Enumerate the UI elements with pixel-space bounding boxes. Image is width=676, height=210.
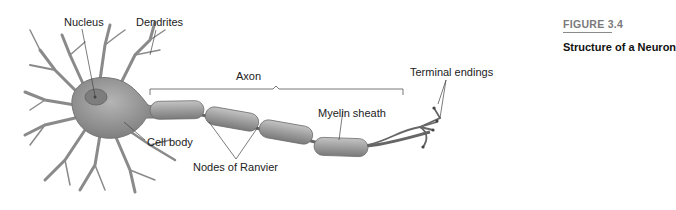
axon-brace [150, 86, 403, 95]
figure-title: Structure of a Neuron [563, 41, 676, 53]
label-myelin-sheath: Myelin sheath [318, 108, 386, 119]
label-nucleus: Nucleus [64, 17, 104, 28]
cell-body-shape [72, 77, 158, 138]
label-dendrites: Dendrites [136, 17, 183, 28]
figure-number: FIGURE 3.4 [563, 18, 623, 30]
figure-divider [563, 32, 612, 33]
label-nodes-of-ranvier: Nodes of Ranvier [193, 162, 278, 173]
label-terminal-endings: Terminal endings [410, 67, 493, 78]
label-axon: Axon [236, 71, 261, 82]
label-cell-body: Cell body [147, 137, 193, 148]
